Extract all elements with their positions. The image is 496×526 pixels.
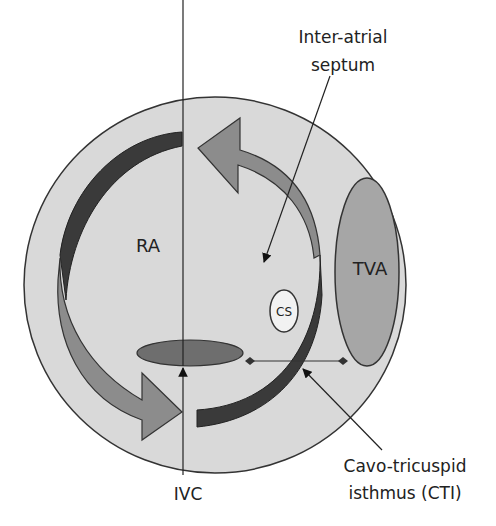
ivc-shape <box>137 340 243 366</box>
label-cti-line2: isthmus (CTI) <box>348 483 461 503</box>
label-cti-line1: Cavo-tricuspid <box>344 456 467 476</box>
label-septum-line1: Inter-atrial <box>299 27 388 47</box>
flutter-circuit-diagram: Inter-atrial septum RA TVA CS IVC Cavo-t… <box>0 0 496 526</box>
label-ra: RA <box>136 235 161 256</box>
label-cs: CS <box>276 305 292 319</box>
label-ivc: IVC <box>174 484 203 504</box>
label-septum-line2: septum <box>311 55 375 75</box>
label-tva: TVA <box>352 258 388 279</box>
